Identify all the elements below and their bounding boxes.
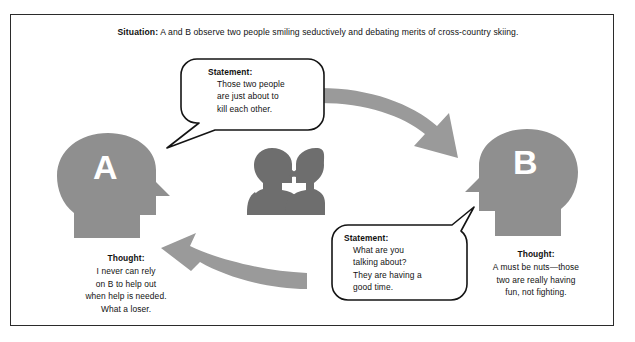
statement-b-label: Statement: bbox=[344, 232, 466, 244]
head-letter-a: A bbox=[93, 150, 118, 184]
thought-a-block: Thought: I never can relyon B to help ou… bbox=[36, 252, 216, 315]
thought-b-block: Thought: A must be nuts—thosetwo are rea… bbox=[450, 248, 622, 299]
thought-a-label: Thought: bbox=[36, 252, 216, 264]
statement-a-text: Statement: Those two peopleare just abou… bbox=[208, 66, 320, 115]
thought-a-body: I never can relyon B to help outwhen hel… bbox=[36, 265, 216, 315]
statement-b-body: What are youtalking about?They are havin… bbox=[344, 244, 466, 293]
statement-a-body: Those two peopleare just about tokill ea… bbox=[208, 78, 320, 115]
statement-a-label: Statement: bbox=[208, 66, 320, 78]
thought-b-label: Thought: bbox=[450, 248, 622, 260]
arrow-a-to-b bbox=[320, 88, 458, 158]
statement-b-text: Statement: What are youtalking about?The… bbox=[344, 232, 466, 293]
head-letter-b: B bbox=[513, 145, 538, 179]
thought-b-body: A must be nuts—thosetwo are really havin… bbox=[450, 261, 622, 298]
diagram-canvas: Situation: A and B observe two people sm… bbox=[0, 0, 635, 342]
